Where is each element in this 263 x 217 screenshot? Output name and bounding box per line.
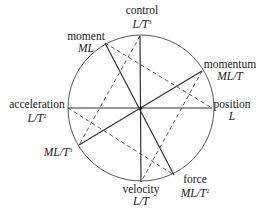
- label-velocity: velocity L/T: [118, 183, 164, 207]
- label-control: control L/T3: [120, 4, 164, 30]
- label-moment: moment ML: [66, 30, 106, 54]
- label-force: force ML/T2: [172, 173, 218, 199]
- label-acceleration: acceleration L/T2: [6, 98, 68, 124]
- dashed-edge-momentum-velocity: [141, 71, 202, 182]
- label-ml-t3: ML/T3: [38, 144, 78, 158]
- dashed-edge-moment-position: [105, 43, 212, 108]
- center-point: [139, 106, 142, 109]
- label-position: position L: [212, 98, 252, 122]
- solid-edge-moment-force: [105, 43, 174, 175]
- label-momentum: momentum ML/T: [200, 58, 260, 82]
